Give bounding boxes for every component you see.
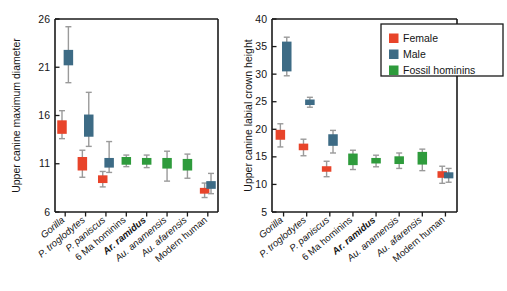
- boxplot-item: [444, 168, 454, 182]
- legend-item[interactable]: Male: [389, 48, 426, 60]
- box-body: [142, 158, 152, 165]
- box-body: [104, 158, 114, 168]
- boxplot-item: [276, 124, 286, 147]
- y-tick-label: 25: [255, 95, 267, 107]
- y-tick-label: 35: [255, 40, 267, 52]
- y-tick-label: 11: [39, 157, 50, 169]
- legend-label: Fossil hominins: [403, 64, 475, 76]
- box-body: [322, 166, 332, 172]
- boxplot-figure: 611162126Upper canine maximum diameterGo…: [0, 0, 507, 291]
- box-body: [78, 157, 88, 171]
- boxplot-item: [78, 150, 88, 177]
- box-body: [98, 175, 108, 183]
- legend-swatch-icon: [389, 34, 399, 44]
- boxplot-item: [183, 154, 193, 178]
- boxplot-item: [64, 27, 73, 83]
- y-axis-title: Upper canine maximum diameter: [10, 38, 22, 193]
- y-tick-label: 16: [38, 109, 50, 121]
- box-body: [57, 120, 67, 134]
- y-tick-label: 30: [255, 68, 267, 80]
- boxplot-item: [348, 150, 358, 169]
- y-tick-label: 21: [38, 61, 50, 73]
- series-fossil-hominins: [348, 149, 427, 171]
- box-body: [444, 172, 454, 178]
- box-body: [276, 130, 286, 140]
- figure-container: 611162126Upper canine maximum diameterGo…: [0, 0, 507, 291]
- box-body: [84, 115, 94, 137]
- y-axis-title: Upper canine labial crown height: [242, 39, 254, 191]
- box-body: [394, 156, 404, 164]
- legend-swatch-icon: [389, 66, 399, 76]
- boxplot-item: [142, 155, 152, 168]
- boxplot-item: [98, 171, 108, 186]
- boxplot-item: [299, 139, 309, 156]
- y-tick-label: 20: [255, 123, 267, 135]
- box-body: [122, 157, 132, 165]
- y-tick-label: 10: [255, 178, 267, 190]
- boxplot-item: [122, 155, 132, 167]
- y-tick-label: 40: [255, 13, 267, 25]
- box-body: [418, 152, 428, 165]
- boxplot-item: [322, 161, 332, 176]
- box-body: [371, 158, 381, 164]
- series-fossil-hominins: [122, 151, 193, 181]
- panel-left: 611162126Upper canine maximum diameterGo…: [10, 13, 218, 264]
- boxplot-item: [282, 37, 292, 76]
- boxplot-item: [328, 130, 338, 153]
- box-body: [328, 134, 338, 146]
- boxplot-item: [305, 97, 315, 107]
- legend-swatch-icon: [389, 50, 399, 60]
- y-tick-label: 6: [44, 206, 50, 218]
- legend-item[interactable]: Female: [389, 32, 438, 44]
- boxplot-item: [418, 149, 428, 171]
- boxplot-item: [394, 153, 404, 168]
- boxplot-item: [84, 92, 94, 146]
- box-body: [64, 50, 73, 65]
- y-tick-label: 5: [261, 206, 267, 218]
- box-body: [348, 154, 358, 166]
- legend: FemaleMaleFossil hominins: [381, 24, 503, 76]
- box-body: [162, 158, 172, 169]
- boxplot-item: [162, 151, 172, 181]
- box-body: [206, 181, 216, 189]
- box-body: [282, 42, 292, 72]
- box-body: [299, 144, 309, 151]
- box-body: [183, 159, 193, 171]
- y-tick-label: 15: [255, 150, 267, 162]
- legend-label: Male: [403, 48, 426, 60]
- boxplot-item: [104, 142, 114, 173]
- y-tick-label: 26: [38, 13, 50, 25]
- box-body: [305, 100, 315, 106]
- boxplot-item: [371, 155, 381, 167]
- legend-label: Female: [403, 32, 438, 44]
